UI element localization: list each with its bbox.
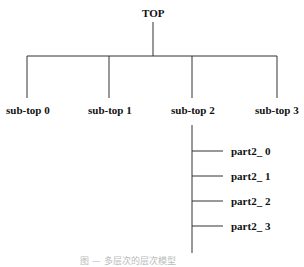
- node-top: TOP: [142, 7, 164, 19]
- node-part2-3: part2_ 3: [231, 220, 270, 232]
- node-sub-top-2: sub-top 2: [171, 104, 215, 116]
- node-part2-0: part2_ 0: [231, 145, 270, 157]
- node-sub-top-3: sub-top 3: [255, 104, 299, 116]
- node-sub-top-0: sub-top 0: [6, 104, 50, 116]
- node-sub-top-1: sub-top 1: [88, 104, 132, 116]
- figure-caption: 图 — 多层次的层次模型: [80, 254, 176, 267]
- node-part2-2: part2_ 2: [231, 195, 270, 207]
- node-part2-1: part2_ 1: [231, 170, 270, 182]
